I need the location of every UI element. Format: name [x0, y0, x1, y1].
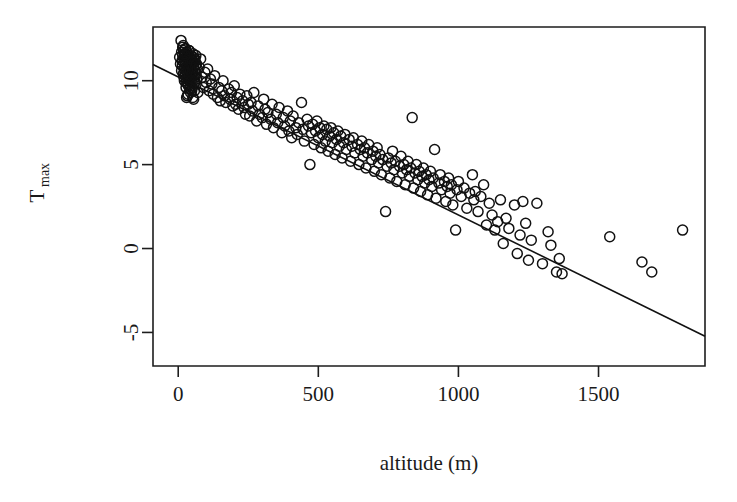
x-axis-title: altitude (m)	[380, 451, 479, 475]
x-tick-label: 1500	[578, 382, 620, 406]
x-tick-label: 1000	[437, 382, 479, 406]
x-tick-label: 500	[303, 382, 335, 406]
y-axis-title-subscript: max	[37, 163, 52, 187]
y-tick-label: -5	[119, 324, 143, 342]
y-tick-label: 0	[119, 243, 143, 254]
y-axis-title-base: T	[25, 189, 49, 202]
x-tick-label: 0	[173, 382, 184, 406]
scatter-plot: 050010001500 -50510 altitude (m) T max	[0, 0, 737, 502]
plot-background	[0, 0, 737, 502]
figure-container: 050010001500 -50510 altitude (m) T max	[0, 0, 737, 502]
y-tick-label: 5	[119, 159, 143, 170]
y-tick-label: 10	[119, 70, 143, 91]
